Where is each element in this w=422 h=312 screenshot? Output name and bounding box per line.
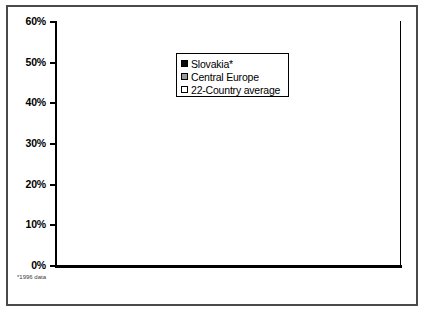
y-tick-label: 40% bbox=[0, 96, 46, 108]
y-tick-label: 20% bbox=[0, 178, 46, 190]
y-tick-label: 60% bbox=[0, 15, 46, 27]
legend-item-22-country-average[interactable]: 22-Country average bbox=[181, 83, 288, 96]
y-tick-label: 0% bbox=[0, 259, 46, 271]
legend-item-slovakia[interactable]: Slovakia* bbox=[181, 57, 288, 70]
chart-legend: Slovakia* Central Europe 22-Country aver… bbox=[176, 53, 289, 97]
chart-footnote: *1996 data bbox=[17, 274, 46, 280]
y-tick-mark bbox=[50, 21, 56, 23]
legend-swatch-icon-22-country-average bbox=[181, 86, 188, 93]
y-tick-label: 30% bbox=[0, 137, 46, 149]
legend-swatch-icon-central-europe bbox=[181, 73, 188, 80]
frame-right-rule bbox=[416, 5, 418, 306]
legend-label-22-country-average: 22-Country average bbox=[191, 84, 280, 96]
legend-swatch-icon-slovakia bbox=[181, 60, 188, 67]
frame-bottom-rule bbox=[6, 304, 418, 306]
y-tick-mark bbox=[50, 224, 56, 226]
frame-top-rule bbox=[6, 5, 418, 7]
y-tick-mark bbox=[50, 102, 56, 104]
y-tick-label: 10% bbox=[0, 218, 46, 230]
legend-label-central-europe: Central Europe bbox=[191, 71, 259, 83]
y-tick-mark bbox=[50, 143, 56, 145]
y-tick-mark bbox=[50, 62, 56, 64]
legend-label-slovakia: Slovakia* bbox=[191, 58, 233, 70]
y-tick-label: 50% bbox=[0, 56, 46, 68]
y-tick-mark bbox=[50, 184, 56, 186]
legend-item-central-europe[interactable]: Central Europe bbox=[181, 70, 288, 83]
y-tick-mark bbox=[50, 265, 56, 267]
